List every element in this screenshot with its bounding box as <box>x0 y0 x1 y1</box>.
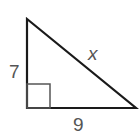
vertical-leg-label: 7 <box>9 61 20 82</box>
horizontal-leg-label: 9 <box>73 114 84 134</box>
right-angle-marker <box>27 84 50 108</box>
triangle-shape <box>27 19 136 108</box>
hypotenuse-label: x <box>87 43 99 64</box>
right-triangle-diagram: 7 x 9 <box>0 0 139 134</box>
